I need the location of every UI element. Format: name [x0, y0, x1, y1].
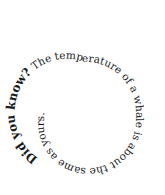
spiral-lead-text: Did you know? — [3, 65, 39, 167]
spiral-text: Did you know? The temperature of a whale… — [3, 49, 146, 179]
spiral-body-text: The temperature of a whale is about the … — [25, 49, 146, 179]
spiral-svg: Did you know? The temperature of a whale… — [0, 0, 165, 195]
spiral-text-graphic: Did you know? The temperature of a whale… — [0, 0, 165, 195]
